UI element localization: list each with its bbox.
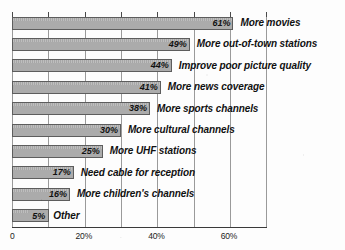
bar-row: 44%Improve poor picture quality	[12, 59, 311, 72]
x-axis-tick-label: 40%	[148, 231, 164, 241]
bar-category-label: More children's channels	[77, 188, 194, 200]
bar-value-label: 25%	[79, 146, 102, 157]
bar-row: 49%More out-of-town stations	[12, 38, 317, 51]
x-axis-line	[12, 227, 267, 228]
bar-category-label: More cultural channels	[128, 124, 235, 136]
bar-value-label: 44%	[148, 60, 171, 71]
bar: 41%	[12, 81, 161, 94]
bar: 49%	[12, 38, 190, 51]
bar-texture	[13, 39, 189, 42]
bar-texture	[13, 18, 232, 21]
bar-row: 5%Other	[12, 209, 80, 222]
bar: 25%	[12, 145, 103, 158]
bar-row: 16%More children's channels	[12, 188, 194, 201]
bar-value-label: 17%	[50, 167, 73, 178]
bar-category-label: More movies	[240, 17, 300, 29]
bar-value-label: 61%	[209, 18, 232, 29]
bar-row: 30%More cultural channels	[12, 124, 235, 137]
bar: 38%	[12, 102, 150, 115]
bar: 5%	[12, 209, 30, 222]
bar-category-label: More news coverage	[168, 81, 265, 93]
bar: 61%	[12, 17, 233, 30]
bar: 44%	[12, 59, 172, 72]
bar: 30%	[12, 124, 121, 137]
bar-category-label: Need cable for reception	[81, 167, 195, 179]
bar-row: 61%More movies	[12, 17, 300, 30]
bar-row: 25%More UHF stations	[12, 145, 196, 158]
x-axis-tick-label: 0	[10, 231, 15, 241]
bar-category-label: More out-of-town stations	[197, 38, 317, 50]
bar-category-label: More sports channels	[157, 103, 258, 115]
bar-category-label: Improve poor picture quality	[179, 60, 311, 72]
bar-value-label: 30%	[97, 125, 120, 136]
bar-value-label: 49%	[166, 39, 189, 50]
bar-value-label: 5%	[29, 209, 49, 222]
bar-value-label: 38%	[126, 103, 149, 114]
bar-row: 38%More sports channels	[12, 102, 258, 115]
bar-texture	[13, 210, 29, 213]
bar-category-label: More UHF stations	[110, 145, 197, 157]
bar-chart: 61%More movies49%More out-of-town statio…	[0, 0, 345, 250]
x-axis-tick-label: 20%	[76, 231, 92, 241]
bar: 16%	[12, 188, 70, 201]
bar-value-label: 16%	[46, 189, 69, 200]
bar-value-label: 41%	[137, 82, 160, 93]
bar-row: 17%Need cable for reception	[12, 166, 195, 179]
x-axis-tick-label: 60%	[221, 231, 237, 241]
bar-category-label: Other	[53, 210, 79, 222]
bar: 17%	[12, 166, 74, 179]
plot-area: 61%More movies49%More out-of-town statio…	[12, 12, 345, 228]
bar-row: 41%More news coverage	[12, 81, 264, 94]
